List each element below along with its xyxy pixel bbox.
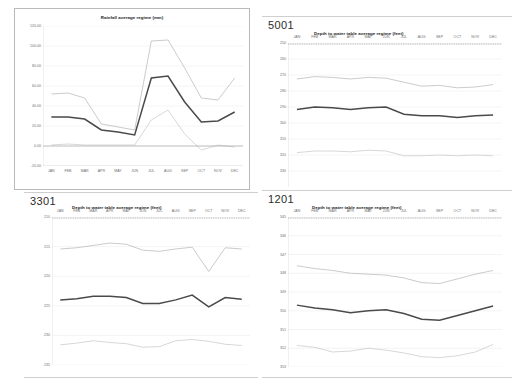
y-tick-label: 120.00: [17, 24, 41, 28]
x-tick-label-month: OCT: [205, 209, 213, 213]
plot-area-well-1201: [288, 217, 502, 367]
x-tick-label-month: FEB: [73, 209, 80, 213]
x-tick-label-month: SEP: [181, 169, 188, 173]
y-tick-label: 346: [264, 234, 286, 238]
plot-area-rainfall: [43, 26, 243, 166]
x-tick-label-month: JUN: [131, 169, 138, 173]
y-tick-label: 250: [264, 41, 286, 45]
well-id-5001: 5001: [268, 19, 294, 31]
x-tick-label-month: JAN: [294, 209, 301, 213]
y-tick-label: 280: [264, 89, 286, 93]
chart-title-rainfall: Rainfall average regime (mm): [15, 15, 249, 20]
y-tick-label: 350: [264, 309, 286, 313]
screenshot-root: Rainfall average regime (mm) 120.00100.0…: [0, 0, 519, 383]
y-tick-label: 100.00: [17, 44, 41, 48]
x-tick-label-month: JUL: [401, 209, 407, 213]
y-tick-label: 260: [264, 57, 286, 61]
y-tick-label: 330: [264, 169, 286, 173]
y-tick-label: 310: [264, 137, 286, 141]
x-tick-label-month: FEB: [311, 35, 318, 39]
x-tick-label-month: OCT: [198, 169, 206, 173]
chart-title-well-5001: Depth to water table average regime (fee…: [314, 31, 403, 36]
x-tick-label-month: FEB: [65, 169, 72, 173]
x-tick-label-month: AUG: [418, 209, 426, 213]
x-tick-label-month: NOV: [471, 35, 479, 39]
y-tick-label: 0.00: [17, 144, 41, 148]
x-tick-label-month: APR: [98, 169, 105, 173]
x-tick-label-month: MAY: [364, 209, 372, 213]
y-tick-label: 345: [264, 215, 286, 219]
x-tick-label-month: MAR: [329, 35, 337, 39]
y-tick-label: 40.00: [17, 104, 41, 108]
y-tick-label: 348: [264, 271, 286, 275]
chart-panel-well-1201: 1201 Depth to water table average regime…: [262, 190, 512, 378]
x-tick-label-month: JUL: [401, 35, 407, 39]
y-tick-label: 270: [264, 73, 286, 77]
x-tick-label-month: JUN: [383, 35, 390, 39]
y-tick-label: 225: [26, 304, 50, 308]
chart-panel-well-5001: 5001 Depth to water table average regime…: [262, 16, 512, 192]
y-tick-label: 60.00: [17, 84, 41, 88]
x-tick-label-month: DEC: [489, 35, 497, 39]
well-id-3301: 3301: [30, 195, 56, 207]
y-tick-label: 215: [26, 245, 50, 249]
chart-frame-rainfall: Rainfall average regime (mm) 120.00100.0…: [14, 8, 250, 190]
y-tick-label: 320: [264, 153, 286, 157]
y-tick-label: 351: [264, 328, 286, 332]
x-tick-label-month: DEC: [238, 209, 246, 213]
x-tick-label-month: JAN: [294, 35, 301, 39]
x-tick-label-month: OCT: [454, 35, 462, 39]
x-tick-label-month: SEP: [436, 35, 443, 39]
x-tick-label-month: AUG: [418, 35, 426, 39]
chart-panel-rainfall: Rainfall average regime (mm) 120.00100.0…: [14, 8, 250, 190]
x-tick-label-month: FEB: [311, 209, 318, 213]
y-tick-label: 290: [264, 105, 286, 109]
x-tick-label-month: MAR: [329, 209, 337, 213]
y-tick-label: -20.00: [17, 164, 41, 168]
plot-area-well-5001: [288, 43, 502, 187]
x-tick-label-month: DEC: [231, 169, 239, 173]
x-tick-label-month: JUN: [139, 209, 146, 213]
x-tick-label-month: AUG: [164, 169, 172, 173]
x-tick-label-month: SEP: [189, 209, 196, 213]
x-tick-label-month: NOV: [214, 169, 222, 173]
y-tick-label: 353: [264, 365, 286, 369]
x-tick-label-month: DEC: [489, 209, 497, 213]
y-tick-label: 347: [264, 253, 286, 257]
well-id-1201: 1201: [268, 193, 294, 205]
x-tick-label-month: SEP: [436, 209, 443, 213]
x-tick-label-month: AUG: [172, 209, 180, 213]
y-tick-label: 235: [26, 363, 50, 367]
plot-area-well-3301: [52, 217, 250, 365]
x-tick-label-month: NOV: [471, 209, 479, 213]
chart-frame-well-3301: 3301 Depth to water table average regime…: [24, 192, 258, 378]
chart-frame-well-5001: 5001 Depth to water table average regime…: [262, 16, 512, 192]
x-tick-label-month: OCT: [454, 209, 462, 213]
x-tick-label-month: APR: [347, 209, 354, 213]
y-tick-label: 220: [26, 274, 50, 278]
y-tick-label: 300: [264, 121, 286, 125]
x-tick-label-month: MAY: [114, 169, 122, 173]
x-tick-label-month: MAR: [89, 209, 97, 213]
x-tick-label-month: JUL: [148, 169, 154, 173]
x-tick-label-month: JUL: [156, 209, 162, 213]
y-tick-label: 20.00: [17, 124, 41, 128]
x-tick-label-month: MAY: [122, 209, 130, 213]
y-tick-label: 352: [264, 346, 286, 350]
chart-panel-well-3301: 3301 Depth to water table average regime…: [24, 192, 258, 378]
x-tick-label-month: JAN: [57, 209, 64, 213]
x-tick-label-month: MAY: [364, 35, 372, 39]
x-tick-label-month: APR: [106, 209, 113, 213]
x-tick-label-month: JUN: [383, 209, 390, 213]
x-tick-label-month: JAN: [48, 169, 55, 173]
y-tick-label: 230: [26, 333, 50, 337]
x-tick-label-month: MAR: [81, 169, 89, 173]
x-tick-label-month: NOV: [221, 209, 229, 213]
chart-frame-well-1201: 1201 Depth to water table average regime…: [262, 190, 512, 378]
y-tick-label: 80.00: [17, 64, 41, 68]
y-tick-label: 349: [264, 290, 286, 294]
chart-title-well-3301: Depth to water table average regime (fee…: [72, 205, 161, 210]
x-tick-label-month: APR: [347, 35, 354, 39]
y-tick-label: 210: [26, 215, 50, 219]
